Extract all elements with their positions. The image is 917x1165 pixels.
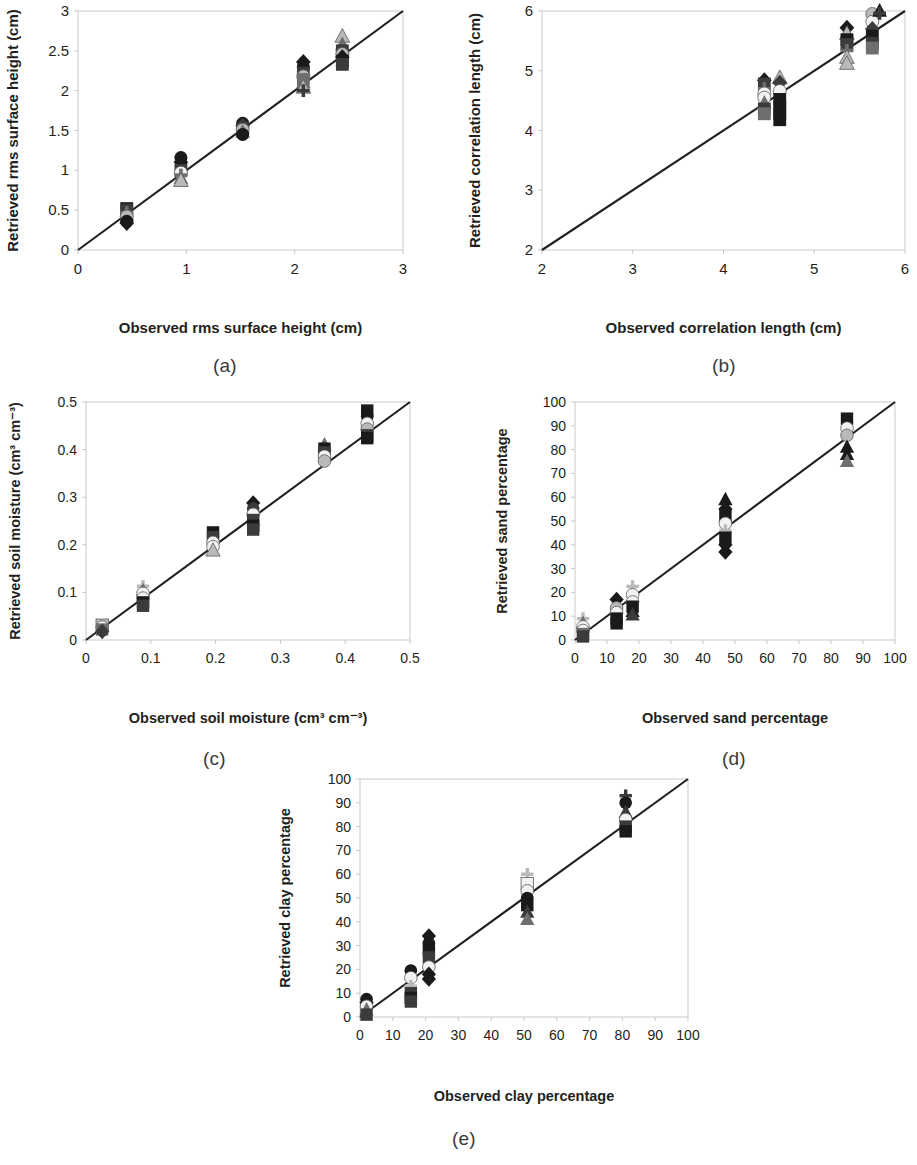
data-point-square (137, 600, 149, 612)
x-tick-label: 2 (290, 260, 298, 277)
data-markers (119, 28, 349, 230)
x-tick-label: 90 (855, 650, 871, 666)
x-tick-label: 0.3 (271, 650, 291, 666)
y-tick-label: 10 (550, 608, 566, 624)
y-tick-label: 20 (335, 961, 351, 977)
y-tick-label: 0 (61, 241, 69, 258)
x-tick-label: 20 (418, 1027, 434, 1043)
x-axis-title: Observed clay percentage (434, 1088, 615, 1104)
y-axis: 0102030405060708090100 (543, 394, 575, 648)
y-tick-label: 0.5 (48, 201, 69, 218)
x-tick-label: 50 (516, 1027, 532, 1043)
data-point-square (360, 1008, 372, 1020)
y-tick-label: 60 (335, 866, 351, 882)
y-axis: 00.511.522.53 (48, 2, 78, 258)
y-tick-label: 0.2 (58, 537, 78, 553)
panel-e-clay-percentage: 0102030405060708090100010203040506070809… (240, 765, 710, 1115)
y-tick-label: 20 (550, 584, 566, 600)
data-markers (95, 404, 373, 639)
y-tick-label: 0 (558, 632, 566, 648)
data-point-square (361, 432, 373, 444)
y-tick-label: 40 (550, 537, 566, 553)
x-axis-title: Observed sand percentage (642, 710, 828, 726)
y-tick-label: 80 (335, 819, 351, 835)
y-tick-label: 30 (550, 561, 566, 577)
data-point-square (619, 825, 631, 837)
y-tick-label: 80 (550, 442, 566, 458)
y-tick-label: 0.4 (58, 442, 78, 458)
data-markers (359, 789, 632, 1020)
data-markers (576, 412, 854, 642)
y-tick-label: 0.5 (58, 394, 78, 410)
x-tick-label: 5 (810, 260, 818, 277)
data-point-square (247, 523, 259, 535)
x-tick-label: 50 (727, 650, 743, 666)
y-axis-title: Retrieved correlation length (cm) (466, 13, 483, 248)
x-tick-label: 100 (883, 650, 907, 666)
y-tick-label: 100 (328, 771, 352, 787)
y-tick-label: 0.3 (58, 489, 78, 505)
y-tick-label: 1 (61, 161, 69, 178)
x-axis-title: Observed soil moisture (cm³ cm⁻³) (129, 710, 368, 726)
caption-d: (d) (722, 748, 746, 770)
x-tick-label: 2 (538, 260, 546, 277)
data-point-triangle (840, 454, 854, 467)
data-point-circle (318, 455, 331, 468)
y-tick-label: 30 (335, 938, 351, 954)
data-point-square (336, 58, 349, 71)
data-point-square (773, 113, 786, 126)
x-tick-label: 0.1 (141, 650, 161, 666)
y-tick-label: 2.5 (48, 42, 69, 59)
x-tick-label: 1 (182, 260, 190, 277)
x-axis: 00.10.20.30.40.5 (82, 640, 420, 666)
x-tick-label: 0.4 (335, 650, 355, 666)
x-tick-label: 40 (695, 650, 711, 666)
y-tick-label: 4 (525, 122, 533, 139)
y-tick-label: 10 (335, 985, 351, 1001)
x-axis: 0102030405060708090100 (356, 1017, 700, 1043)
x-tick-label: 20 (631, 650, 647, 666)
caption-b: (b) (712, 355, 736, 377)
y-axis: 00.10.20.30.40.5 (58, 394, 86, 648)
data-point-square (405, 995, 417, 1007)
y-tick-label: 6 (525, 2, 533, 19)
y-tick-label: 40 (335, 914, 351, 930)
y-tick-label: 90 (335, 795, 351, 811)
x-tick-label: 3 (399, 260, 407, 277)
x-tick-label: 10 (385, 1027, 401, 1043)
y-tick-label: 50 (335, 890, 351, 906)
caption-c: (c) (203, 748, 226, 770)
x-tick-label: 70 (791, 650, 807, 666)
x-tick-label: 3 (629, 260, 637, 277)
y-axis: 0102030405060708090100 (328, 771, 360, 1025)
data-point-triangle (520, 912, 534, 925)
y-tick-label: 70 (550, 465, 566, 481)
plot-e: 0102030405060708090100010203040506070809… (240, 765, 710, 1115)
x-tick-label: 70 (582, 1027, 598, 1043)
x-axis-title: Observed correlation length (cm) (606, 319, 842, 336)
x-tick-label: 4 (719, 260, 727, 277)
x-tick-label: 60 (759, 650, 775, 666)
y-tick-label: 3 (525, 181, 533, 198)
plot-c: 00.10.20.30.40.500.10.20.30.40.5Observed… (0, 390, 440, 735)
data-point-circle (236, 128, 249, 141)
x-tick-label: 40 (483, 1027, 499, 1043)
x-axis: 0123 (74, 250, 407, 277)
data-point-square (866, 42, 879, 55)
x-tick-label: 0 (82, 650, 90, 666)
data-point-square (610, 617, 622, 629)
y-axis-title: Retrieved soil moisture (cm³ cm⁻³) (7, 402, 23, 640)
x-tick-label: 30 (451, 1027, 467, 1043)
data-point-square (577, 630, 589, 642)
panel-b-correlation-length: 2345623456Observed correlation length (c… (460, 0, 917, 345)
x-tick-label: 0 (571, 650, 579, 666)
plot-b: 2345623456Observed correlation length (c… (460, 0, 917, 345)
y-tick-label: 50 (550, 513, 566, 529)
y-tick-label: 0 (343, 1009, 351, 1025)
caption-a: (a) (213, 355, 237, 377)
x-tick-label: 80 (823, 650, 839, 666)
y-axis-title: Retrieved sand percentage (494, 428, 510, 613)
y-axis: 23456 (525, 2, 542, 258)
y-tick-label: 90 (550, 418, 566, 434)
y-tick-label: 70 (335, 842, 351, 858)
